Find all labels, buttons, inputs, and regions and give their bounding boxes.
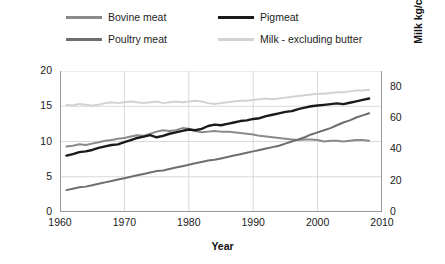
x-axis-tick-label: 1990 (233, 216, 273, 229)
legend-item-pigmeat: Pigmeat (218, 12, 426, 23)
legend-item-milk-excluding-butter: Milk - excluding butter (218, 34, 426, 45)
chart-legend: Bovine meat Pigmeat Poultry meat Milk - … (66, 6, 426, 50)
y-axis-right-tick-label: 20 (390, 174, 414, 186)
y-axis-left-tick-label: 10 (28, 135, 52, 147)
chart-figure: Bovine meat Pigmeat Poultry meat Milk - … (0, 0, 445, 264)
x-axis-tick-label: 2010 (362, 216, 402, 229)
legend-item-bovine-meat: Bovine meat (66, 12, 218, 23)
chart-plot-svg (60, 71, 382, 212)
y-axis-right-tick-label: 60 (390, 111, 414, 123)
legend-item-poultry-meat: Poultry meat (66, 34, 218, 45)
legend-label-poultry-meat: Poultry meat (108, 34, 167, 45)
y-axis-right-title: Milk kg/capita/year (412, 0, 424, 72)
y-axis-left-tick-label: 15 (28, 99, 52, 111)
legend-label-bovine-meat: Bovine meat (108, 12, 166, 23)
legend-label-milk-excluding-butter: Milk - excluding butter (260, 34, 362, 45)
legend-label-pigmeat: Pigmeat (260, 12, 299, 23)
plot-area (60, 71, 382, 212)
x-axis-tick-label: 2000 (298, 216, 338, 229)
y-axis-left-tick-label: 20 (28, 64, 52, 76)
legend-swatch-milk-excluding-butter (218, 38, 254, 41)
x-axis-tick-label: 1970 (104, 216, 144, 229)
y-axis-right-tick-label: 80 (390, 80, 414, 92)
x-axis-tick-label: 1960 (40, 216, 80, 229)
legend-swatch-bovine-meat (66, 16, 102, 19)
y-axis-right-tick-label: 40 (390, 142, 414, 154)
series-line-milk-excluding-butter (66, 90, 369, 106)
x-axis-title: Year (0, 240, 445, 252)
x-axis-tick-label: 1980 (169, 216, 209, 229)
legend-swatch-poultry-meat (66, 38, 102, 41)
y-axis-left-tick-label: 5 (28, 170, 52, 182)
legend-swatch-pigmeat (218, 16, 254, 19)
series-line-pigmeat (66, 98, 369, 155)
